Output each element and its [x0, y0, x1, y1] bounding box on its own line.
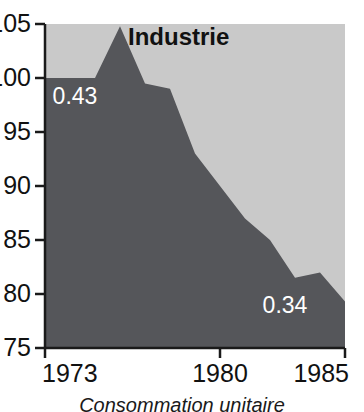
x-tick-label: 1980 [192, 359, 248, 387]
y-tick-label: 95 [3, 117, 31, 145]
area-chart: 1051009590858075 197319801985 Industrie … [0, 0, 364, 412]
y-tick-label: 85 [3, 225, 31, 253]
x-tick-label: 1973 [42, 359, 98, 387]
y-tick-label: 80 [3, 279, 31, 307]
chart-container: 1051009590858075 197319801985 Industrie … [0, 0, 364, 412]
x-tick-label: 1985 [293, 359, 349, 387]
y-tick-label: 105 [0, 9, 31, 37]
y-tick-label: 100 [0, 63, 31, 91]
y-axis-ticks: 1051009590858075 [0, 9, 45, 361]
chart-title: Industrie [128, 23, 229, 50]
data-label: 0.43 [53, 83, 98, 109]
x-axis-ticks: 197319801985 [42, 348, 349, 387]
data-label: 0.34 [263, 292, 308, 318]
y-tick-label: 90 [3, 171, 31, 199]
y-tick-label: 75 [3, 333, 31, 361]
chart-caption: Consommation unitaire [0, 394, 364, 412]
